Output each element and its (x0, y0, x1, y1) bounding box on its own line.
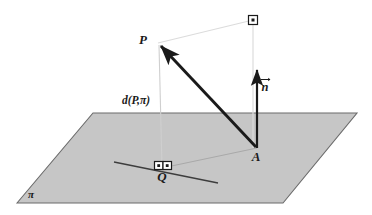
label-point-p: P (139, 32, 148, 47)
right-angle-marker-top (249, 16, 258, 25)
label-point-a: A (251, 149, 261, 164)
label-point-q: Q (157, 169, 167, 184)
plane-group (17, 113, 357, 203)
plane-pi-surface (17, 113, 357, 203)
right-angle-dot-top (252, 19, 255, 22)
right-angle-dot-q-left (157, 164, 160, 167)
label-normal-vector: n (262, 80, 269, 94)
figure-root: P A Q d(P,π) n π (0, 0, 372, 215)
geometry-diagram: P A Q d(P,π) n π (0, 0, 372, 215)
label-plane-pi: π (28, 188, 35, 200)
right-angle-dot-q-right (166, 164, 169, 167)
guide-line-p-to-corner (158, 20, 253, 43)
label-distance: d(P,π) (122, 94, 150, 107)
